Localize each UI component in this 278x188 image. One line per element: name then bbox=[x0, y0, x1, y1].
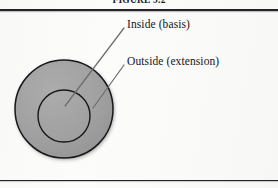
figure-page: FIGURE 9.2 Inside (bas bbox=[0, 0, 278, 188]
horizontal-rule-bottom bbox=[0, 180, 278, 181]
label-outside-extension: Outside (extension) bbox=[127, 55, 219, 68]
figure-caption: FIGURE 9.2 bbox=[0, 0, 278, 7]
label-inside-basis: Inside (basis) bbox=[127, 18, 190, 31]
outer-circle-shape bbox=[15, 60, 113, 158]
diagram-canvas bbox=[0, 10, 278, 180]
